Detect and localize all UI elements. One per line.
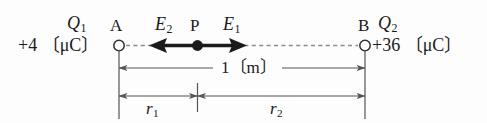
field-point-marker-p bbox=[192, 40, 203, 51]
charge-q1-name-label: Q1 bbox=[67, 14, 86, 35]
charge-marker-b bbox=[360, 40, 370, 50]
charge-q2-name-label: Q2 bbox=[378, 14, 397, 35]
point-label-a: A bbox=[110, 17, 122, 34]
point-label-b: B bbox=[358, 17, 369, 34]
charge-marker-a bbox=[114, 40, 124, 50]
dimension-label-r1: r1 bbox=[146, 100, 159, 119]
dimension-label-r2: r2 bbox=[270, 100, 283, 119]
field-e1-symbol: E bbox=[223, 14, 234, 34]
field-vector-label-e2: E2 bbox=[155, 15, 172, 36]
dimension-r2-symbol: r bbox=[270, 99, 277, 118]
charge-q2-subscript: 2 bbox=[391, 21, 397, 35]
dimension-label-total: 1〔m〕 bbox=[216, 59, 282, 76]
dimension-r1-subscript: 1 bbox=[153, 107, 159, 119]
dimension-r1-symbol: r bbox=[146, 99, 153, 118]
charge-q1-symbol: Q bbox=[67, 13, 80, 33]
field-vector-label-e1: E1 bbox=[223, 15, 240, 36]
dimension-r2-subscript: 2 bbox=[277, 107, 283, 119]
charge-q1-subscript: 1 bbox=[80, 21, 86, 35]
point-label-p: P bbox=[190, 17, 199, 34]
charge-q2-symbol: Q bbox=[378, 13, 391, 33]
electric-field-diagram: +4 〔μC〕 +36 〔μC〕 Q1 Q2 A B P E2 E1 1〔m〕 … bbox=[0, 0, 487, 123]
field-e1-subscript: 1 bbox=[234, 22, 240, 36]
field-e2-subscript: 2 bbox=[166, 22, 172, 36]
field-e2-symbol: E bbox=[155, 14, 166, 34]
charge-q1-value-label: +4 〔μC〕 bbox=[18, 36, 99, 54]
charge-q2-value-label: +36 〔μC〕 bbox=[372, 36, 462, 54]
